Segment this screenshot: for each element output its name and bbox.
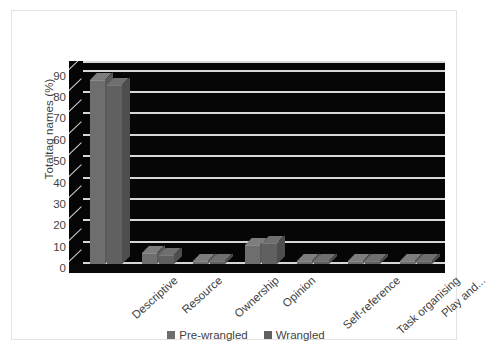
y-axis-tick-label: 20: [32, 219, 66, 231]
bar-group: [186, 61, 238, 264]
chart-legend: Pre-wrangledWrangled: [12, 329, 480, 341]
y-axis-tick-label: 90: [32, 70, 66, 82]
axis-depth-line: [69, 78, 82, 93]
legend-swatch-icon: [167, 331, 175, 339]
axis-depth-line: [69, 61, 82, 72]
bar-wrangled[interactable]: [365, 261, 380, 264]
bar-pre-wrangled[interactable]: [297, 261, 312, 264]
y-axis-tick-label: 70: [32, 112, 66, 124]
y-axis-tick-label: 50: [32, 155, 66, 167]
legend-label: Pre-wrangled: [179, 329, 247, 341]
bar-pre-wrangled[interactable]: [400, 261, 415, 264]
y-axis-tick-label: 40: [32, 177, 66, 189]
bar-front-face: [262, 243, 277, 264]
x-axis-tick-label: Opinion: [280, 274, 317, 309]
bar-front-face: [400, 261, 415, 264]
bar-wrangled[interactable]: [210, 261, 225, 264]
bar-pre-wrangled[interactable]: [245, 245, 260, 264]
x-axis-tick-label: Resource: [179, 274, 224, 316]
bar-wrangled[interactable]: [314, 261, 329, 264]
y-axis-tick-label: 10: [32, 241, 66, 253]
y-axis-tick-label: 80: [32, 91, 66, 103]
bar-wrangled[interactable]: [159, 255, 174, 264]
bar-side-face: [122, 77, 130, 264]
axis-depth-line: [69, 121, 82, 136]
bar-wrangled[interactable]: [262, 243, 277, 264]
bar-pre-wrangled[interactable]: [193, 261, 208, 264]
bar-pre-wrangled[interactable]: [142, 253, 157, 264]
bar-pre-wrangled[interactable]: [90, 80, 105, 264]
bar-front-face: [90, 80, 105, 264]
y-axis-tick-label: 60: [32, 134, 66, 146]
bar-front-face: [348, 261, 363, 264]
y-axis-tick-label: 30: [32, 198, 66, 210]
bar-front-face: [210, 261, 225, 264]
bar-front-face: [314, 261, 329, 264]
figure-frame: Totaltag names (%) 0102030405060708090 D…: [11, 10, 457, 340]
axis-depth-line: [69, 142, 82, 157]
axis-depth-line: [69, 228, 82, 243]
y-axis-tick-labels: 0102030405060708090: [32, 63, 66, 271]
axis-depth-line: [69, 249, 82, 264]
bar-front-face: [193, 261, 208, 264]
axis-depth-line: [69, 207, 82, 222]
bar-front-face: [297, 261, 312, 264]
legend-item[interactable]: Pre-wrangled: [167, 329, 247, 341]
bar-pre-wrangled[interactable]: [348, 261, 363, 264]
axis-depth-line: [69, 164, 82, 179]
x-axis-tick-label: Ownership: [233, 274, 282, 320]
bars-layer: [83, 61, 445, 273]
bar-front-face: [245, 245, 260, 264]
bar-group: [342, 61, 394, 264]
legend-label: Wrangled: [276, 329, 325, 341]
legend-swatch-icon: [264, 331, 272, 339]
bar-group: [135, 61, 187, 264]
x-axis-tick-label: Self-reference: [340, 274, 402, 331]
bar-group: [290, 61, 342, 264]
bar-front-face: [159, 255, 174, 264]
bar-group: [393, 61, 445, 264]
x-axis-tick-labels: DescriptiveResourceOwnershipOpinionSelf-…: [69, 274, 449, 332]
plot-side-wall: [69, 61, 83, 273]
plot-area: [69, 61, 445, 273]
bar-front-face: [417, 261, 432, 264]
legend-item[interactable]: Wrangled: [264, 329, 325, 341]
axis-depth-line: [69, 185, 82, 200]
x-axis-tick-label: Descriptive: [130, 274, 180, 321]
bar-wrangled[interactable]: [107, 85, 122, 264]
bar-front-face: [142, 253, 157, 264]
bar-group: [83, 61, 135, 264]
bar-front-face: [365, 261, 380, 264]
bar-wrangled[interactable]: [417, 261, 432, 264]
bar-front-face: [107, 85, 122, 264]
y-axis-tick-label: 0: [32, 262, 66, 274]
axis-depth-line: [69, 100, 82, 115]
bar-group: [238, 61, 290, 264]
